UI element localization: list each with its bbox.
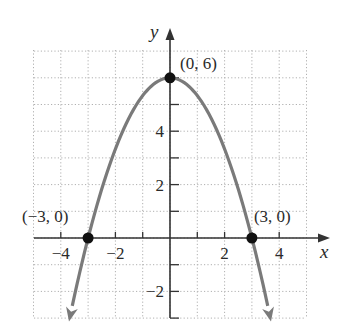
curve-arrow-icon	[262, 307, 274, 322]
point-label: (0, 6)	[180, 54, 217, 73]
y-axis-arrow-icon	[166, 28, 175, 40]
y-tick-label: 2	[156, 176, 165, 195]
point-label: (3, 0)	[254, 207, 291, 226]
x-tick-label: −2	[106, 244, 124, 263]
x-tick-label: 4	[275, 244, 284, 263]
curve-arrow-icon	[66, 307, 78, 322]
data-point	[83, 233, 94, 244]
y-tick-label: −2	[146, 282, 164, 301]
parabola-graph: −4−22442−2 (−3, 0)(0, 6)(3, 0) x y	[0, 0, 347, 333]
x-axis-label: x	[319, 241, 329, 262]
x-tick-label: 2	[220, 244, 229, 263]
point-label: (−3, 0)	[22, 207, 68, 226]
y-axis-label: y	[148, 21, 159, 42]
data-point	[246, 233, 257, 244]
y-tick-label: 4	[156, 122, 165, 141]
data-point	[165, 72, 176, 83]
x-tick-label: −4	[52, 244, 71, 263]
